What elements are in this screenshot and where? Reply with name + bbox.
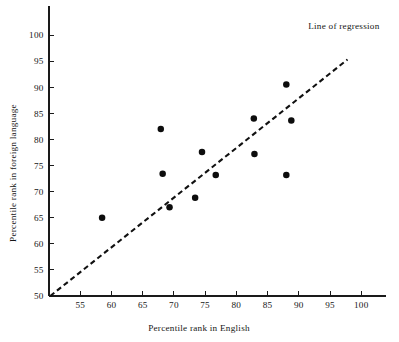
y-axis-tick-label: 55 [34,265,44,275]
y-axis-tick-label: 70 [34,187,44,197]
x-axis-tick-label: 100 [354,300,369,310]
regression-label: Line of regression [308,21,379,31]
x-axis-tick-label: 90 [294,300,304,310]
y-axis-tick-label: 90 [34,83,44,93]
y-axis-title: Percentile rank in foreign language [8,104,18,242]
x-axis-tick-label: 80 [232,300,242,310]
y-axis-tick-label: 50 [34,291,44,301]
x-axis-tick-label: 65 [138,300,148,310]
y-axis-tick-label: 80 [34,135,44,145]
data-point [283,172,290,179]
y-axis-tick-label: 85 [34,109,44,119]
y-axis-tick-label: 65 [34,213,44,223]
y-axis-tick-label: 95 [34,56,44,66]
y-axis-tick-label: 75 [34,161,44,171]
y-axis-tick-label: 100 [29,30,44,40]
data-point [288,117,295,124]
x-axis-tick-label: 55 [75,300,85,310]
data-point [251,151,258,158]
plot-background [0,0,399,342]
x-axis-tick-label: 60 [107,300,117,310]
scatter-plot-canvas: 50556065707580859095100 5560657075808590… [0,0,399,342]
data-point [199,149,206,156]
y-axis-tick-label: 60 [34,239,44,249]
x-axis-title: Percentile rank in English [148,323,250,333]
x-axis-tick-label: 70 [169,300,179,310]
x-axis-tick-label: 95 [325,300,335,310]
data-point [166,204,173,211]
x-axis-tick-label: 75 [200,300,210,310]
data-point [99,214,106,221]
data-point [159,171,166,178]
data-point [158,126,165,133]
data-point [283,81,290,88]
data-point [251,115,258,122]
data-point [212,172,219,179]
scatter-plot-figure: 50556065707580859095100 5560657075808590… [0,0,399,342]
x-axis-tick-label: 85 [263,300,273,310]
data-point [192,195,199,202]
